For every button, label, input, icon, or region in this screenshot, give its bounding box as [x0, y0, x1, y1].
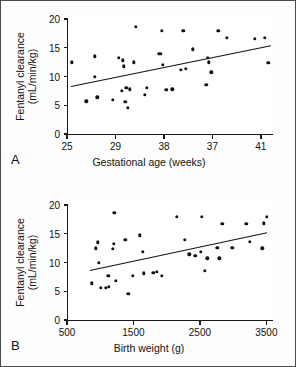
x-axis-tick-label: 1500: [122, 327, 144, 338]
x-axis-tick: [66, 321, 67, 325]
panel-b-plot-area: 05101520500150025003500: [1, 183, 296, 367]
x-axis-tick-label: 25: [61, 141, 72, 152]
figure-container: Fentanyl clearance (mL/min/kg) 051015202…: [0, 0, 296, 367]
y-axis-tick: [64, 204, 68, 205]
y-axis-tick: [64, 76, 68, 77]
y-axis-tick-label: 5: [37, 100, 60, 111]
y-axis-tick-label: 20: [37, 200, 60, 211]
x-axis-line: [67, 134, 273, 135]
y-axis-tick-label: 20: [37, 14, 60, 25]
y-axis-tick-label: 0: [37, 315, 60, 326]
x-axis-tick: [266, 321, 267, 325]
y-axis-tick: [64, 18, 68, 19]
x-axis-tick: [163, 135, 164, 139]
x-axis-tick-label: 41: [255, 141, 266, 152]
y-axis-tick: [64, 233, 68, 234]
x-axis-line: [67, 320, 273, 321]
x-axis-tick: [212, 135, 213, 139]
y-axis-tick-label: 5: [37, 286, 60, 297]
x-axis-tick-label: 29: [110, 141, 121, 152]
panel-a-label: A: [11, 152, 20, 167]
x-axis-tick-label: 500: [59, 327, 76, 338]
y-axis-tick-label: 10: [37, 257, 60, 268]
y-axis-tick: [64, 262, 68, 263]
x-axis-tick-label: 2500: [189, 327, 211, 338]
panel-b-label: B: [11, 338, 20, 353]
x-axis-tick-label: 38: [158, 141, 169, 152]
y-axis-tick-label: 10: [37, 71, 60, 82]
x-axis-tick: [133, 321, 134, 325]
panel-b: Fentanyl clearance (mL/min/kg) 051015205…: [1, 183, 296, 367]
x-axis-tick: [66, 135, 67, 139]
y-axis-tick: [64, 291, 68, 292]
x-axis-tick-label: 3500: [255, 327, 277, 338]
panel-b-x-axis-title: Birth weight (g): [1, 342, 296, 354]
y-axis-tick-label: 15: [37, 228, 60, 239]
y-axis-tick: [64, 47, 68, 48]
panel-a-x-axis-title: Gestational age (weeks): [1, 156, 296, 168]
panel-a: Fentanyl clearance (mL/min/kg) 051015202…: [1, 1, 296, 186]
x-axis-tick: [115, 135, 116, 139]
x-axis-tick: [260, 135, 261, 139]
y-axis-tick-label: 0: [37, 129, 60, 140]
y-axis-tick-label: 15: [37, 42, 60, 53]
x-axis-tick: [199, 321, 200, 325]
plot-background: [67, 15, 273, 134]
y-axis-tick: [64, 105, 68, 106]
x-axis-tick-label: 37: [207, 141, 218, 152]
